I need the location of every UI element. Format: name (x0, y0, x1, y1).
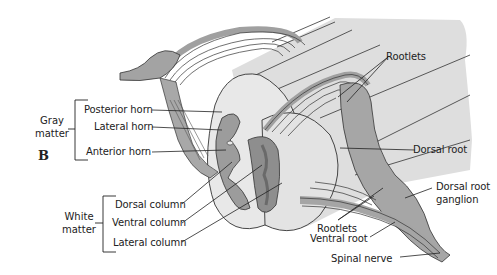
label-dorsal-root: Dorsal root (413, 144, 467, 156)
label-lateral-horn: Lateral horn (94, 121, 154, 133)
label-rootlets-dorsal: Rootlets (386, 51, 426, 63)
spinal-cord-diagram: B Gray matter White matter Posterior hor… (0, 0, 497, 275)
label-lateral-column: Lateral column (113, 237, 186, 249)
left-dorsal-root-ganglion (120, 51, 180, 81)
gray-matter-group-label: Gray matter (35, 114, 69, 140)
gray-matter-line2: matter (35, 127, 69, 140)
label-ventral-column: Ventral column (112, 217, 186, 229)
label-dorsal-root-ganglion-line1: Dorsal root (436, 181, 490, 193)
label-spinal-nerve: Spinal nerve (331, 253, 392, 265)
label-posterior-horn: Posterior horn (84, 104, 153, 116)
gray-matter-line1: Gray (35, 114, 69, 127)
white-matter-group-label: White matter (62, 210, 96, 236)
white-matter-line2: matter (62, 223, 96, 236)
label-dorsal-root-ganglion-line2: ganglion (436, 194, 478, 206)
white-matter-line1: White (62, 210, 96, 223)
label-dorsal-column: Dorsal column (115, 199, 186, 211)
label-anterior-horn: Anterior horn (86, 146, 151, 158)
panel-label: B (38, 148, 49, 163)
label-ventral-root: Ventral root (310, 233, 368, 245)
central-canal (227, 141, 233, 145)
